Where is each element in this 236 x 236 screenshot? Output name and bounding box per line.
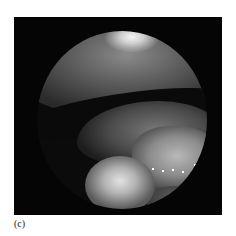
figure-caption: (c) bbox=[14, 218, 25, 229]
left-tissue-mass bbox=[85, 156, 155, 209]
specular-highlights bbox=[149, 161, 207, 177]
endoscopic-view bbox=[37, 31, 207, 209]
image-frame bbox=[14, 17, 222, 215]
